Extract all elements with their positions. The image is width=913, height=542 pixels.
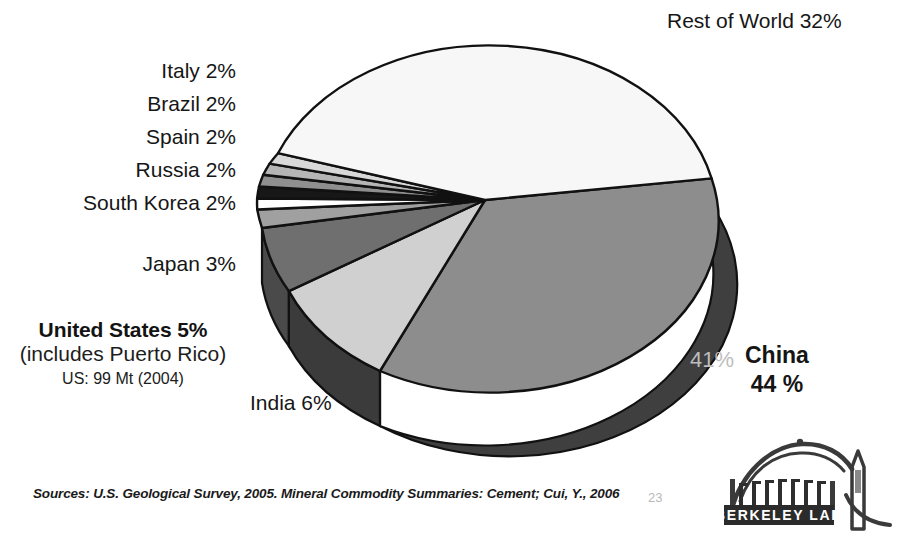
label-china-block: China 44 %: [745, 341, 809, 399]
slide-canvas: Italy 2% Brazil 2% Spain 2% Russia 2% So…: [0, 0, 913, 542]
sources-note: Sources: U.S. Geological Survey, 2005. M…: [33, 486, 619, 501]
label-spain: Spain 2%: [30, 126, 236, 147]
label-south-korea: South Korea 2%: [30, 192, 236, 213]
label-china-ghost-percent: 41%: [690, 347, 734, 373]
slide-number: 23: [648, 490, 662, 505]
label-china-percent: 44 %: [745, 370, 809, 399]
label-italy: Italy 2%: [30, 60, 236, 81]
label-india: India 6%: [250, 392, 332, 413]
label-brazil: Brazil 2%: [30, 93, 236, 114]
label-rest-of-world: Rest of World 32%: [667, 10, 842, 31]
label-united-states-sub: (includes Puerto Rico): [10, 342, 236, 366]
label-japan: Japan 3%: [30, 253, 236, 274]
logo-wordmark: BERKELEY LAB: [718, 507, 843, 523]
berkeley-lab-logo: BERKELEY LAB: [718, 437, 904, 533]
label-united-states-block: United States 5% (includes Puerto Rico) …: [10, 318, 236, 388]
label-china-name: China: [745, 341, 809, 370]
label-russia: Russia 2%: [30, 159, 236, 180]
label-united-states-note: US: 99 Mt (2004): [10, 369, 236, 388]
logo-columns: [739, 479, 826, 505]
label-united-states: United States 5%: [10, 318, 236, 342]
